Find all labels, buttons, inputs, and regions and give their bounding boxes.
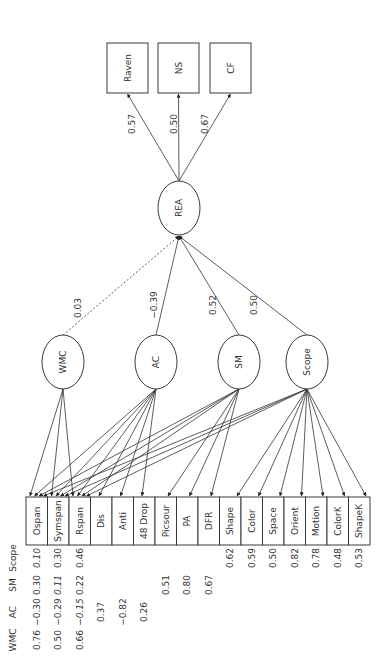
indicator-label: Space <box>268 507 278 535</box>
table-value: 0.67 <box>204 575 214 595</box>
indicator-label: PA <box>182 515 192 527</box>
table-value: 0.76 <box>32 630 42 650</box>
indicator-label: DFR <box>204 512 214 530</box>
table-value: 0.26 <box>139 602 149 622</box>
indicator-label: Orient <box>290 507 300 536</box>
loading-arrow <box>39 389 239 496</box>
loading-arrow <box>44 389 308 496</box>
loading-arrow <box>179 94 180 181</box>
indicator-label: Ospan <box>32 507 42 536</box>
factor-label: AC <box>151 356 161 368</box>
table-value: −0.15 <box>75 598 85 626</box>
table-value: 0.53 <box>354 548 364 568</box>
table-header: WMC <box>8 629 18 652</box>
indicator-label: Anti <box>118 512 128 530</box>
table-value: 0.30 <box>32 575 42 595</box>
table-value: 0.80 <box>182 575 192 595</box>
loading-arrow <box>179 94 231 181</box>
indicator-label: Dis <box>96 514 106 528</box>
table-value: 0.10 <box>32 548 42 568</box>
table-header: AC <box>8 606 18 618</box>
table-value: 0.59 <box>247 548 257 568</box>
table-header: SM <box>8 578 18 591</box>
loading-arrow <box>302 389 308 496</box>
table-value: 0.82 <box>290 548 300 568</box>
indicator-label: Motion <box>311 506 321 537</box>
structural-path <box>63 236 179 335</box>
loading-arrow <box>280 389 307 496</box>
loading-arrow <box>52 389 64 496</box>
indicator-label: NS <box>174 61 184 74</box>
table-value: 0.51 <box>161 575 171 595</box>
table-value: −0.30 <box>32 598 42 626</box>
indicator-label: ColorK <box>333 505 343 535</box>
loading-arrow <box>65 389 307 496</box>
table-header: Scope <box>8 544 18 572</box>
indicator-label: Picsour <box>161 505 171 538</box>
path-coefficient: −0.39 <box>149 291 159 319</box>
table-value: 0.50 <box>53 630 63 650</box>
table-value: 0.62 <box>225 548 235 568</box>
edges <box>30 94 366 496</box>
path-coefficient: 0.52 <box>208 295 218 315</box>
loading-arrow <box>30 389 63 496</box>
loading-arrow <box>168 389 239 496</box>
factor-label: Scope <box>302 348 312 376</box>
loading-arrow <box>99 389 156 496</box>
table-value: 0.22 <box>75 575 85 595</box>
loading-arrow <box>35 389 157 496</box>
factor-label: WMC <box>58 351 68 374</box>
structural-path <box>179 236 239 335</box>
indicator-label: 48 Drop <box>139 503 149 539</box>
indicator-label: ShapeK <box>354 503 364 538</box>
indicator-label: Raven <box>123 54 133 82</box>
sem-diagram-canvas: Raven0.57NS0.50CF0.67REAWMC0.03AC−0.39SM… <box>0 0 377 659</box>
factor-label: SM <box>234 355 244 368</box>
table-value: −0.82 <box>118 598 128 626</box>
indicator-label: CF <box>226 62 236 73</box>
loadings-table: WMCACSMScope0.76−0.300.300.100.50−0.290.… <box>8 544 364 652</box>
structural-path <box>179 236 307 335</box>
factor-label: REA <box>174 198 184 217</box>
loading-arrow <box>63 389 73 496</box>
table-value: 0.46 <box>75 548 85 568</box>
table-value: 0.37 <box>96 602 106 622</box>
sem-diagram: Raven0.57NS0.50CF0.67REAWMC0.03AC−0.39SM… <box>0 0 377 659</box>
loading-label: 0.67 <box>200 114 210 134</box>
loading-arrow <box>259 389 308 496</box>
indicator-label: Symspan <box>53 500 63 541</box>
loading-arrow <box>128 94 180 181</box>
loading-label: 0.50 <box>169 114 179 134</box>
loading-arrow <box>61 389 240 496</box>
path-coefficient: 0.50 <box>249 295 259 315</box>
indicator-label: Color <box>247 509 257 533</box>
table-value: 0.66 <box>75 630 85 650</box>
table-value: −0.29 <box>53 598 63 626</box>
table-value: 0.50 <box>268 548 278 568</box>
table-value: 0.48 <box>333 548 343 568</box>
table-value: 0.11 <box>53 575 63 595</box>
path-coefficient: 0.03 <box>73 298 83 318</box>
table-value: 0.78 <box>311 548 321 568</box>
indicator-label: Rspan <box>75 507 85 535</box>
loading-arrow <box>307 389 323 496</box>
loading-arrow <box>237 389 307 496</box>
indicator-label: Shape <box>225 506 235 535</box>
loading-label: 0.57 <box>127 114 137 134</box>
loading-arrow <box>307 389 345 496</box>
table-value: 0.30 <box>53 548 63 568</box>
nodes: Raven0.57NS0.50CF0.67REAWMC0.03AC−0.39SM… <box>26 43 370 545</box>
structural-path <box>156 236 179 335</box>
loading-arrow <box>307 389 366 496</box>
